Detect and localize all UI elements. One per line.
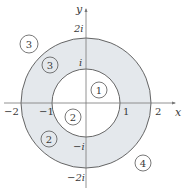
svg-text:1: 1 — [96, 85, 102, 96]
x-tick-neg1: −1 — [39, 106, 54, 117]
region-label-4: 4 — [135, 155, 151, 171]
y-tick-2i: 2i — [73, 23, 84, 34]
y-axis-label: y — [75, 3, 83, 16]
y-tick-neg-2i: −2i — [67, 172, 85, 183]
svg-text:4: 4 — [140, 158, 146, 169]
svg-text:2: 2 — [70, 112, 76, 123]
complex-plane-diagram: x y −2 −1 1 2 2i i −i −2i 1 2 2 3 3 4 — [0, 0, 183, 190]
x-axis-arrow-icon — [172, 102, 176, 105]
y-axis-arrow-icon — [85, 8, 88, 12]
x-tick-1: 1 — [123, 106, 129, 117]
y-tick-neg-i: −i — [73, 141, 85, 152]
x-tick-2: 2 — [155, 106, 161, 117]
x-tick-neg2: −2 — [4, 106, 19, 117]
svg-text:2: 2 — [46, 134, 52, 145]
svg-text:3: 3 — [26, 39, 32, 50]
y-tick-i: i — [79, 57, 82, 68]
svg-text:3: 3 — [47, 60, 53, 71]
region-label-3-outer: 3 — [20, 35, 38, 53]
x-axis-label: x — [175, 106, 182, 119]
